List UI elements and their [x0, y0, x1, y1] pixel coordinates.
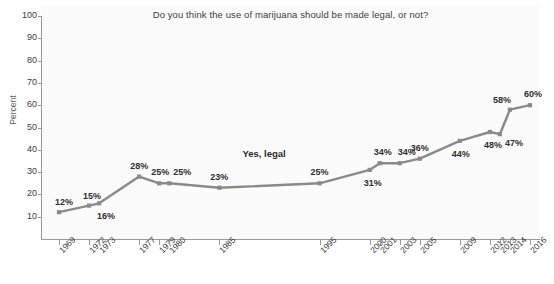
- y-tick-label: 50: [11, 122, 37, 132]
- y-tick-mark: [38, 172, 42, 173]
- y-tick-mark: [38, 150, 42, 151]
- data-point-label: 34%: [374, 147, 392, 157]
- y-tick-mark: [38, 194, 42, 195]
- y-tick-mark: [38, 105, 42, 106]
- data-point-label: 15%: [83, 191, 101, 201]
- data-point-label: 47%: [505, 138, 523, 148]
- data-point-label: 36%: [411, 143, 429, 153]
- y-tick-mark: [38, 38, 42, 39]
- chart-title: Do you think the use of marijuana should…: [41, 9, 540, 20]
- data-point-label: 12%: [55, 197, 73, 207]
- y-tick-label: 10: [11, 211, 37, 221]
- data-point-label: 58%: [493, 95, 511, 105]
- y-tick-mark: [38, 61, 42, 62]
- y-tick-mark: [38, 128, 42, 129]
- plot-area: [41, 6, 540, 239]
- y-tick-label: 90: [11, 32, 37, 42]
- data-point-label: 31%: [364, 178, 382, 188]
- data-point-label: 23%: [210, 172, 228, 182]
- data-point-label: 60%: [524, 89, 542, 99]
- data-point-label: 48%: [484, 140, 502, 150]
- data-point-label: 16%: [97, 211, 115, 221]
- data-point-label: 25%: [151, 167, 169, 177]
- series-annotation: Yes, legal: [242, 148, 285, 159]
- y-tick-mark: [38, 217, 42, 218]
- y-tick-label: 80: [11, 55, 37, 65]
- y-tick-label: 70: [11, 77, 37, 87]
- data-point-label: 28%: [130, 161, 148, 171]
- data-point-label: 25%: [311, 167, 329, 177]
- y-tick-mark: [38, 16, 42, 17]
- chart-container: Do you think the use of marijuana should…: [0, 0, 554, 284]
- y-tick-label: 20: [11, 188, 37, 198]
- data-point-label: 25%: [173, 167, 191, 177]
- y-tick-label: 40: [11, 144, 37, 154]
- y-tick-label: 60: [11, 99, 37, 109]
- data-point-label: 44%: [452, 149, 470, 159]
- y-tick-mark: [38, 83, 42, 84]
- y-tick-label: 100: [11, 10, 37, 20]
- y-tick-label: 30: [11, 166, 37, 176]
